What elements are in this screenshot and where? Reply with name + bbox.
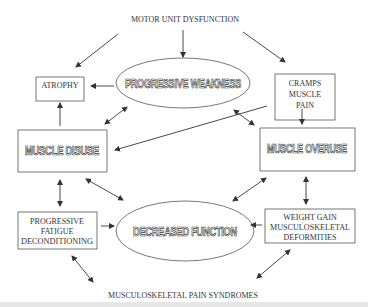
svg-text:PROGRESSIVE: PROGRESSIVE [30, 217, 84, 226]
arrow-cramps-to-disuse [115, 106, 267, 150]
svg-text:WEIGHT GAIN: WEIGHT GAIN [283, 213, 337, 222]
decreased-function-node: DECREASED FUNCTION [116, 201, 254, 261]
arrow-weightgain-pain [257, 250, 290, 278]
svg-text:PAIN: PAIN [296, 101, 314, 110]
arrow-fatigue-pain [72, 256, 93, 282]
svg-text:ATROPHY: ATROPHY [42, 81, 79, 90]
svg-text:MUSCLE: MUSCLE [289, 90, 322, 99]
flow-diagram: MOTOR UNIT DYSFUNCTION ATROPHY PROGRESSI… [0, 0, 368, 307]
svg-text:PROGRESSIVE WEAKNESS: PROGRESSIVE WEAKNESS [125, 77, 241, 91]
atrophy-node: ATROPHY [36, 77, 84, 101]
arrow-weakness-disuse [105, 107, 127, 124]
arrow-overuse-decreased [233, 178, 266, 201]
fatigue-node: PROGRESSIVE FATIGUE DECONDITIONING [18, 212, 97, 249]
svg-text:DEFORMITIES: DEFORMITIES [284, 233, 337, 242]
svg-text:DECONDITIONING: DECONDITIONING [21, 237, 93, 246]
progressive-weakness-node: PROGRESSIVE WEAKNESS [116, 58, 250, 108]
muscle-disuse-node: MUSCLE DISUSE [18, 130, 107, 172]
svg-text:MUSCLE DISUSE: MUSCLE DISUSE [25, 144, 99, 158]
svg-text:FATIGUE: FATIGUE [41, 227, 74, 236]
musculoskeletal-pain-syndromes-label: MUSCULOSKELETAL PAIN SYNDROMES [108, 291, 258, 300]
bottom-strip [0, 302, 368, 307]
arrow-top-to-atrophy [76, 34, 118, 67]
svg-text:MUSCLE OVERUSE: MUSCLE OVERUSE [267, 142, 347, 156]
cramps-node: CRAMPS MUSCLE PAIN [275, 74, 335, 120]
arrow-top-to-cramps [243, 32, 285, 62]
svg-text:CRAMPS: CRAMPS [289, 79, 321, 88]
arrow-disuse-decreased [86, 179, 123, 200]
svg-text:DECREASED FUNCTION: DECREASED FUNCTION [133, 225, 237, 239]
weight-gain-node: WEIGHT GAIN MUSCULOSKELETAL DEFORMITIES [265, 209, 355, 243]
svg-text:MUSCULOSKELETAL: MUSCULOSKELETAL [270, 223, 350, 232]
motor-unit-dysfunction-label: MOTOR UNIT DYSFUNCTION [131, 15, 239, 24]
muscle-overuse-node: MUSCLE OVERUSE [260, 128, 355, 171]
